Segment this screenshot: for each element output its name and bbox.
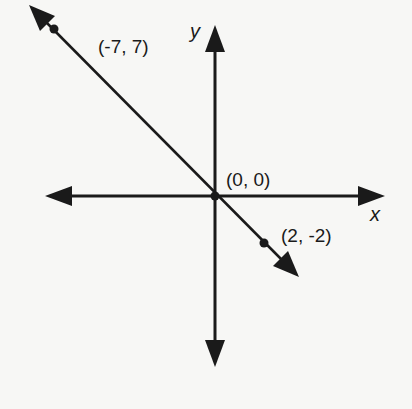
y-axis-down-arrow-icon (205, 340, 225, 367)
x-axis-label: x (369, 203, 381, 225)
y-axis-label: y (188, 20, 201, 42)
point-label-2-neg2: (2, -2) (281, 225, 332, 246)
y-axis-up-arrow-icon (205, 25, 225, 52)
coordinate-plane: (-7, 7) (0, 0) (2, -2) y x (0, 0, 412, 409)
point-label-origin: (0, 0) (226, 169, 270, 190)
point-origin (211, 192, 220, 201)
point-2-neg2 (260, 239, 269, 248)
x-axis-left-arrow-icon (45, 186, 72, 206)
line-y-equals-neg-x (29, 5, 299, 277)
point-neg7-7 (50, 25, 59, 34)
point-label-neg7-7: (-7, 7) (98, 36, 149, 57)
